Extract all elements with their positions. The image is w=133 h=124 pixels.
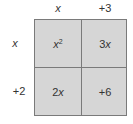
cell-x-squared: x2 — [43, 38, 73, 50]
row-label-plus-2: +2 — [4, 85, 34, 97]
cell-x-squared-exponent: 2 — [59, 38, 63, 45]
cell-2x-var: x — [58, 86, 64, 98]
row-label-x: x — [0, 37, 30, 49]
area-model-grid: x2 3x 2x +6 — [34, 19, 127, 116]
column-label-x: x — [43, 2, 73, 14]
cell-2x: 2x — [43, 86, 73, 98]
column-label-plus-3: +3 — [90, 2, 120, 14]
cell-3x-var: x — [105, 38, 111, 50]
grid-horizontal-divider — [35, 67, 126, 68]
cell-plus-6: +6 — [90, 86, 120, 98]
cell-3x: 3x — [90, 38, 120, 50]
